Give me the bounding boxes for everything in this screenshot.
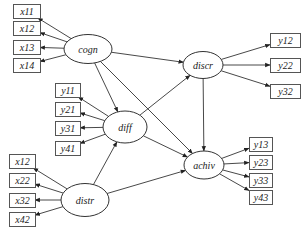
loading-distr-x22 bbox=[35, 184, 63, 193]
path-cogn-to-discr bbox=[111, 52, 183, 62]
indicator-y31: y31 bbox=[56, 122, 81, 136]
latent-diff: diff bbox=[103, 111, 147, 143]
indicator-x13: x13 bbox=[14, 41, 41, 55]
indicator-label: y22 bbox=[277, 60, 292, 71]
indicator-label: y11 bbox=[60, 85, 75, 96]
indicator-x14: x14 bbox=[14, 59, 41, 73]
latent-cogn: cogn bbox=[64, 35, 112, 64]
path-discr-to-achiv bbox=[203, 78, 204, 151]
indicator-label: x12 bbox=[19, 23, 34, 34]
loading-cogn-x11 bbox=[38, 18, 71, 39]
indicator-y21: y21 bbox=[56, 103, 81, 117]
indicator-label: y31 bbox=[60, 123, 75, 134]
indicator-label: y33 bbox=[253, 175, 268, 186]
latent-label: distr bbox=[76, 195, 94, 206]
indicator-label: y41 bbox=[60, 143, 75, 154]
loading-diff-y21 bbox=[80, 113, 105, 121]
latent-distr: distr bbox=[61, 184, 109, 217]
loading-distr-x42 bbox=[35, 207, 63, 215]
loading-achiv-y33 bbox=[223, 170, 249, 177]
indicator-y11: y11 bbox=[56, 84, 81, 98]
diagram-svg: x11x12x13x14y12y22y32y11y21y31y41x12x22x… bbox=[0, 0, 307, 236]
indicator-x32: x32 bbox=[10, 194, 36, 208]
indicator-label: x11 bbox=[19, 6, 34, 17]
indicator-label: x12 bbox=[14, 156, 29, 167]
indicator-label: x32 bbox=[14, 195, 29, 206]
indicator-label: y13 bbox=[253, 139, 268, 150]
latent-achiv: achiv bbox=[184, 151, 224, 179]
loading-achiv-y43 bbox=[220, 174, 249, 191]
indicator-y13: y13 bbox=[250, 138, 273, 152]
indicator-x11: x11 bbox=[14, 5, 41, 19]
indicator-label: y12 bbox=[277, 35, 292, 46]
loading-discr-y32 bbox=[221, 71, 270, 87]
latent-label: cogn bbox=[78, 44, 97, 55]
indicator-y23: y23 bbox=[250, 156, 273, 170]
indicator-y12: y12 bbox=[271, 34, 301, 48]
indicator-label: x13 bbox=[19, 42, 34, 53]
path-diff-to-discr bbox=[140, 75, 190, 115]
loading-discr-y12 bbox=[221, 45, 270, 60]
indicator-label: x14 bbox=[19, 60, 34, 71]
indicator-y41: y41 bbox=[56, 142, 81, 156]
latent-label: achiv bbox=[193, 160, 215, 171]
latent-label: diff bbox=[118, 122, 133, 133]
indicator-y22: y22 bbox=[271, 59, 301, 73]
indicator-y43: y43 bbox=[250, 191, 273, 205]
indicator-y33: y33 bbox=[250, 174, 273, 188]
indicator-x12: x12 bbox=[10, 155, 36, 169]
path-cogn-to-diff bbox=[95, 63, 118, 112]
indicator-x22: x22 bbox=[10, 174, 36, 188]
indicator-x42: x42 bbox=[10, 213, 36, 227]
path-distr-to-achiv bbox=[107, 170, 185, 193]
path-diff-to-achiv bbox=[143, 136, 187, 157]
path-distr-to-diff bbox=[93, 142, 116, 185]
indicator-label: x22 bbox=[14, 175, 29, 186]
indicator-label: y43 bbox=[253, 192, 268, 203]
indicator-x12: x12 bbox=[14, 22, 41, 36]
indicator-y32: y32 bbox=[271, 85, 301, 99]
loading-achiv-y23 bbox=[224, 163, 249, 164]
loading-cogn-x13 bbox=[40, 47, 64, 48]
indicator-label: y21 bbox=[60, 104, 75, 115]
loading-achiv-y13 bbox=[222, 148, 249, 158]
sem-diagram: x11x12x13x14y12y22y32y11y21y31y41x12x22x… bbox=[0, 0, 307, 236]
indicator-label: y32 bbox=[277, 86, 292, 97]
latent-discr: discr bbox=[183, 52, 223, 79]
latent-label: discr bbox=[193, 60, 213, 71]
indicator-label: x42 bbox=[14, 214, 29, 225]
indicator-label: y23 bbox=[253, 157, 268, 168]
loading-diff-y41 bbox=[80, 134, 105, 143]
loading-cogn-x14 bbox=[40, 55, 66, 62]
loading-distr-x12 bbox=[33, 168, 67, 189]
